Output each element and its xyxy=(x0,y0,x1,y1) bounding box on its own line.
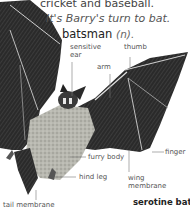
label-hind-leg: hind leg xyxy=(79,173,107,181)
label-furry-body: furry body xyxy=(88,153,124,161)
label-thumb: thumb xyxy=(124,43,147,51)
label-finger: finger xyxy=(165,148,185,156)
entry-example-sentence: It's Barry's turn to bat. xyxy=(46,12,170,25)
entry-headword: batsman (n). xyxy=(62,27,134,41)
illustration-caption: serotine bat xyxy=(133,197,190,207)
label-tail-membrane: tail membrane xyxy=(3,201,54,209)
label-arm: arm xyxy=(97,63,111,71)
headword-text: batsman xyxy=(62,27,112,41)
part-of-speech: (n). xyxy=(116,28,134,40)
label-wing-membrane: wing membrane xyxy=(128,174,166,190)
label-sensitive-ear: sensitive ear xyxy=(70,43,101,59)
entry-definition-text: cricket and baseball. xyxy=(40,0,154,10)
